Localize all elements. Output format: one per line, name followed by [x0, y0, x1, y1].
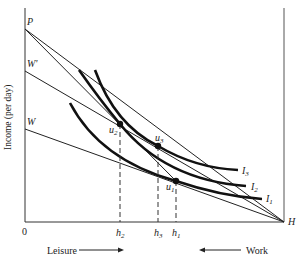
- label-W: W: [27, 116, 37, 127]
- label-leisure: Leisure: [47, 245, 78, 256]
- work-arrowhead-icon: [199, 248, 205, 253]
- label-h1: h1: [172, 227, 181, 240]
- label-h2: h2: [116, 227, 125, 240]
- label-H: H: [287, 216, 296, 227]
- point-u2: [117, 121, 123, 127]
- leisure-arrowhead-icon: [118, 248, 124, 253]
- label-I3: I3: [241, 165, 249, 178]
- label-P: P: [26, 16, 33, 27]
- labor-leisure-diagram: P W' W H 0 Income (per day) u2 u3 u1 h2 …: [0, 0, 304, 259]
- y-axis-label: Income (per day): [3, 85, 14, 150]
- budget-line-P-u1: [25, 29, 176, 181]
- label-u2: u2: [109, 124, 118, 137]
- label-h3: h3: [154, 227, 163, 240]
- budget-line-Wprime-H: [25, 71, 284, 222]
- label-u3: u3: [155, 132, 164, 145]
- label-I1: I1: [265, 193, 273, 206]
- point-u1: [173, 178, 179, 184]
- label-origin: 0: [22, 226, 27, 237]
- label-W-prime: W': [27, 58, 38, 69]
- label-work: Work: [246, 245, 268, 256]
- budget-line-P-H: [25, 29, 284, 222]
- label-u1: u1: [166, 181, 175, 194]
- label-I2: I2: [250, 181, 258, 194]
